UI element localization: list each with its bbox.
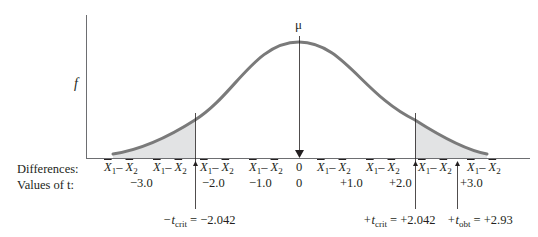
t-obt-arrow-icon bbox=[455, 161, 460, 166]
neg-crit-arrow-icon bbox=[193, 161, 198, 166]
mean-label: μ bbox=[295, 18, 302, 32]
difference-tick: X1– X2 bbox=[249, 160, 283, 176]
t-distribution-diagram bbox=[0, 0, 538, 237]
t-obt-annotation: +tobt = +2.93 bbox=[447, 213, 513, 231]
difference-tick: X1– X2 bbox=[153, 160, 187, 176]
y-axis-label: f bbox=[74, 77, 78, 91]
neg-crit-annotation: −tcrit = −2.042 bbox=[163, 213, 235, 231]
mean-arrow-icon bbox=[295, 150, 304, 158]
difference-tick: X1– X2 bbox=[104, 160, 138, 176]
t-values-row-label: Values of t: bbox=[17, 178, 74, 192]
t-tick: +2.0 bbox=[389, 176, 412, 191]
zero-difference: 0 bbox=[296, 160, 302, 175]
t-tick: −1.0 bbox=[249, 176, 272, 191]
difference-tick: X1– X2 bbox=[317, 160, 351, 176]
difference-tick: X1– X2 bbox=[200, 160, 234, 176]
t-tick: −2.0 bbox=[202, 176, 225, 191]
difference-tick: X1– X2 bbox=[467, 160, 501, 176]
difference-tick: X1– X2 bbox=[418, 160, 452, 176]
pos-crit-annotation: +tcrit = +2.042 bbox=[363, 213, 435, 231]
t-tick: +3.0 bbox=[460, 176, 483, 191]
t-tick: 0 bbox=[296, 176, 302, 191]
difference-tick: X1– X2 bbox=[366, 160, 400, 176]
t-tick: −3.0 bbox=[130, 176, 153, 191]
differences-row-label: Differences: bbox=[17, 162, 79, 176]
t-tick: +1.0 bbox=[340, 176, 363, 191]
